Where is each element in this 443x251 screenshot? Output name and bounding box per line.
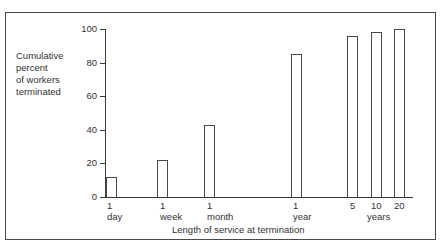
bar-10-years <box>371 32 382 197</box>
x-tick-unit-years: years <box>367 211 390 222</box>
y-tick <box>100 197 105 198</box>
x-tick-num: 1 <box>107 200 122 211</box>
x-tick-unit: month <box>207 211 233 222</box>
y-tick-label: 100 <box>77 23 97 34</box>
y-tick <box>100 96 105 97</box>
x-tick-label-20: 20 <box>394 200 405 211</box>
x-tick-unit: week <box>160 211 182 222</box>
bar-1-year <box>291 54 302 197</box>
y-axis-line <box>105 29 106 198</box>
x-tick-label-10-years: 10 <box>371 200 382 211</box>
x-tick-num: 10 <box>371 200 382 211</box>
x-tick-label-1-week: 1 week <box>160 200 182 222</box>
bar-20-years <box>394 29 405 197</box>
x-tick-num: 1 <box>293 200 311 211</box>
y-tick-label: 80 <box>77 57 97 68</box>
x-axis-title: Length of service at termination <box>172 224 305 235</box>
bar-1-month <box>204 125 215 197</box>
x-tick-label-5: 5 <box>350 200 355 211</box>
x-tick-label-1-day: 1 day <box>107 200 122 222</box>
y-tick <box>100 63 105 64</box>
x-axis-line <box>105 197 413 198</box>
y-axis-title-line: of workers <box>16 74 64 86</box>
x-tick-num: 1 <box>207 200 233 211</box>
y-tick <box>100 130 105 131</box>
bar-1-day <box>106 177 117 197</box>
y-axis-title: Cumulative percent of workers terminated <box>16 50 64 98</box>
y-axis-title-line: percent <box>16 62 64 74</box>
x-tick-unit: year <box>293 211 311 222</box>
x-tick-num: 5 <box>350 200 355 211</box>
y-tick <box>100 163 105 164</box>
y-tick-label: 20 <box>77 157 97 168</box>
x-tick-num: 1 <box>160 200 182 211</box>
x-tick-unit: day <box>107 211 122 222</box>
y-tick-label: 0 <box>77 191 97 202</box>
y-tick-label: 60 <box>77 90 97 101</box>
bar-5-years <box>347 36 358 197</box>
y-axis-title-line: terminated <box>16 86 64 98</box>
y-tick <box>100 29 105 30</box>
y-tick-label: 40 <box>77 124 97 135</box>
bar-1-week <box>157 160 168 197</box>
x-tick-label-1-year: 1 year <box>293 200 311 222</box>
x-tick-num: 20 <box>394 200 405 211</box>
x-tick-label-1-month: 1 month <box>207 200 233 222</box>
y-axis-title-line: Cumulative <box>16 50 64 62</box>
